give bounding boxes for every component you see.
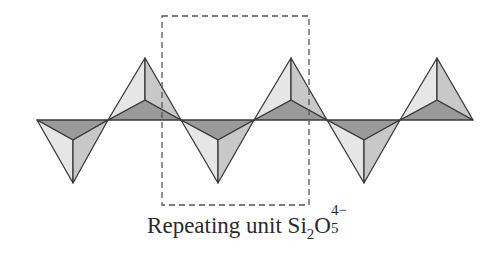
formula-o-subsup: 4−5 — [331, 210, 345, 233]
tetrahedron-up — [254, 58, 327, 120]
tetrahedron-down — [181, 120, 254, 183]
tetrahedron-up — [400, 58, 473, 120]
formula-o: O — [314, 213, 331, 238]
figure-caption: Repeating unit Si2O4−5 — [0, 210, 492, 239]
tetrahedron-down — [37, 120, 108, 183]
formula-o-subscript: 5 — [331, 220, 339, 237]
formula-si: Si — [288, 213, 307, 238]
caption-prefix: Repeating unit — [147, 213, 288, 238]
tetrahedra-chain — [37, 58, 473, 183]
tetrahedron-down — [327, 120, 400, 183]
tetrahedron-up — [108, 58, 181, 120]
formula-charge: 4− — [331, 202, 347, 219]
